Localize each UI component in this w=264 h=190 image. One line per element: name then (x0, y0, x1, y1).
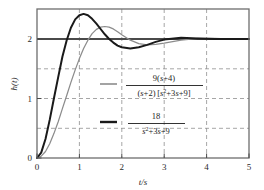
svg-text:h(t): h(t) (9, 77, 19, 90)
x-tick-labels: 0 1 2 3 4 5 (35, 162, 252, 172)
x-tick-label-1: 1 (77, 162, 82, 172)
x-tick-label-5: 5 (247, 162, 252, 172)
y-tick-label-2: 2 (28, 34, 33, 44)
x-axis-title: t/s (139, 177, 148, 187)
legend-2-numerator: 18 (152, 111, 161, 121)
y-tick-labels: 0 1 2 (28, 34, 33, 163)
y-tick-label-0: 0 (28, 153, 33, 163)
y-axis-title-paren-close: ) (9, 77, 19, 81)
x-tick-label-0: 0 (35, 162, 40, 172)
chart-figure: 0 1 2 3 4 5 0 1 2 h(t) t/s (0, 0, 264, 190)
y-axis-title: h(t) (9, 77, 19, 90)
y-tick-label-1: 1 (28, 94, 33, 104)
x-axis-title-s: s (144, 177, 148, 187)
legend-1-numerator: 9(s+4) (153, 73, 175, 83)
step-response-chart: 0 1 2 3 4 5 0 1 2 h(t) t/s (0, 0, 264, 190)
x-tick-label-3: 3 (162, 162, 167, 172)
x-tick-label-4: 4 (204, 162, 209, 172)
x-tick-label-2: 2 (120, 162, 125, 172)
